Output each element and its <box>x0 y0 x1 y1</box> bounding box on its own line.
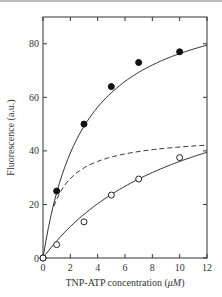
x-tick-label: 10 <box>175 262 185 273</box>
y-axis-label: Fluorescence (a.u.) <box>5 99 17 175</box>
x-tick-label: 0 <box>41 262 46 273</box>
x-tick-label: 4 <box>95 262 100 273</box>
x-tick-label: 2 <box>68 262 73 273</box>
fit-line-open <box>43 152 207 258</box>
x-tick-label: 12 <box>202 262 212 273</box>
y-tick-label: 60 <box>29 92 39 103</box>
y-tick-label: 20 <box>29 199 39 210</box>
dashed-curve <box>54 145 207 206</box>
x-tick-label: 8 <box>150 262 155 273</box>
data-point-filled <box>108 84 114 90</box>
fit-line-filled <box>43 45 207 258</box>
data-point-open <box>108 192 114 198</box>
data-point-open <box>81 219 87 225</box>
x-axis-label: TNP-ATP concentration (μM) <box>65 277 184 289</box>
data-point-filled <box>81 121 87 127</box>
y-tick-label: 40 <box>29 145 39 156</box>
y-tick-label: 80 <box>29 38 39 49</box>
data-point-filled <box>136 60 142 66</box>
data-point-filled <box>177 49 183 55</box>
data-point-open <box>40 255 46 261</box>
y-tick-label: 0 <box>34 253 39 264</box>
data-point-open <box>177 155 183 161</box>
data-point-filled <box>54 188 60 194</box>
data-point-open <box>54 242 60 248</box>
chart: 024681012020406080TNP-ATP concentration … <box>0 0 222 297</box>
x-tick-label: 6 <box>123 262 128 273</box>
data-point-open <box>136 176 142 182</box>
